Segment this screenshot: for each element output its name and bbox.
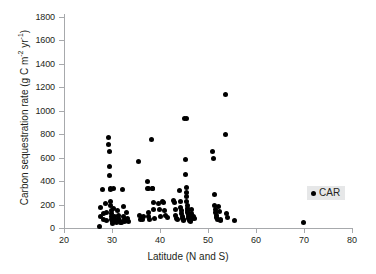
x-axis-title: Latitude (N and S) <box>0 251 376 262</box>
data-point <box>145 179 150 184</box>
y-axis-title: Carbon sequestration rate (g C m-2 yr-1) <box>19 8 30 228</box>
x-axis-tick-label: 60 <box>244 236 268 245</box>
data-point <box>301 220 306 225</box>
data-point <box>183 157 188 162</box>
data-point <box>100 187 105 192</box>
x-axis-tick <box>64 228 65 233</box>
y-axis-title-exponent-time: -1 <box>17 33 24 39</box>
data-point <box>211 156 216 161</box>
data-point <box>141 214 146 219</box>
data-point <box>165 215 170 220</box>
data-point <box>98 205 103 210</box>
legend-marker-car-icon <box>311 191 316 196</box>
data-point <box>152 216 157 221</box>
data-point <box>158 214 163 219</box>
y-axis-tick-label: 600 <box>40 154 55 163</box>
y-axis-title-main: Carbon sequestration rate (g C m <box>19 57 30 205</box>
data-point <box>121 204 126 209</box>
y-axis-title-exponent-area: -2 <box>17 51 24 57</box>
data-point <box>107 173 112 178</box>
y-axis-title-close: ) <box>19 30 30 33</box>
data-point <box>157 207 162 212</box>
x-axis-tick-label: 50 <box>196 236 220 245</box>
y-axis-tick-label: 1200 <box>35 83 55 92</box>
data-point <box>107 149 112 154</box>
x-axis-tick <box>256 228 257 233</box>
x-axis-tick <box>112 228 113 233</box>
x-axis-tick-label: 80 <box>340 236 364 245</box>
x-axis-tick-label: 70 <box>292 236 316 245</box>
y-axis-tick-label: 0 <box>50 224 55 233</box>
data-point <box>149 137 154 142</box>
data-point <box>104 210 109 215</box>
data-point <box>173 207 178 212</box>
data-point <box>151 207 156 212</box>
y-axis-title-mid: yr <box>19 39 30 50</box>
legend-label-car: CAR <box>319 188 340 198</box>
data-point <box>184 116 189 121</box>
data-point <box>223 132 228 137</box>
y-axis-tick-label: 1000 <box>35 107 55 116</box>
y-axis-tick-label: 400 <box>40 177 55 186</box>
data-point <box>184 185 189 190</box>
x-axis-tick-label: 40 <box>148 236 172 245</box>
legend[interactable]: CAR <box>307 186 345 200</box>
y-axis-tick-label: 1400 <box>35 60 55 69</box>
x-axis-tick <box>208 228 209 233</box>
data-point <box>192 216 197 221</box>
data-point <box>178 199 183 204</box>
data-point <box>217 209 222 214</box>
y-axis-tick-label: 1800 <box>35 13 55 22</box>
data-point <box>177 188 182 193</box>
data-point <box>225 215 230 220</box>
x-axis-tick <box>304 228 305 233</box>
data-point <box>212 192 217 197</box>
x-axis-tick <box>160 228 161 233</box>
y-axis-tick-label: 1600 <box>35 36 55 45</box>
x-axis-tick-label: 30 <box>100 236 124 245</box>
y-axis-tick-label: 200 <box>40 201 55 210</box>
x-axis-tick <box>352 228 353 233</box>
data-point <box>106 142 111 147</box>
carbon-sequestration-scatter-figure: 020040060080010001200140016001800 203040… <box>0 0 376 274</box>
y-axis-tick-label: 800 <box>40 130 55 139</box>
data-point <box>120 187 125 192</box>
data-point <box>106 135 111 140</box>
data-point <box>223 92 228 97</box>
x-axis-tick-label: 20 <box>52 236 76 245</box>
